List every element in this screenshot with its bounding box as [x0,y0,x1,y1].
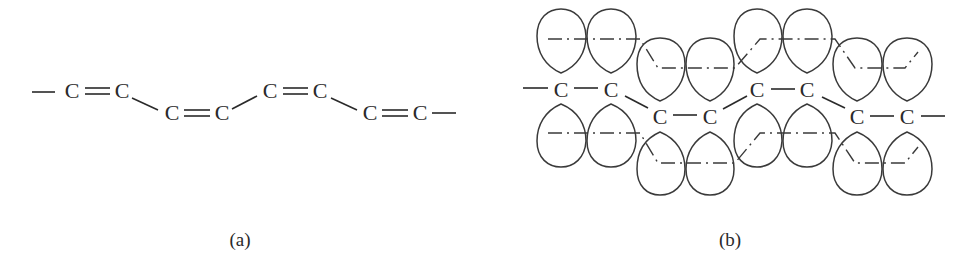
p-orbital-lobe [833,38,882,101]
lobe-pair [537,9,636,73]
carbon-atom: C [413,100,428,125]
p-orbital-lobe [637,132,685,195]
single-bond [132,98,158,110]
carbon-atom: C [850,104,865,129]
p-orbital-lobe [637,38,685,101]
p-orbital-lobe [587,9,636,73]
lobe-pair [734,104,832,167]
carbon-atom: C [750,77,765,102]
lobe-pair [637,38,734,101]
panel-b-orbital-diagram: C C C C C C C C (b) [523,9,945,251]
p-orbital-lobe [537,9,586,73]
carbon-atom: C [65,78,80,103]
carbon-atom: C [703,104,718,129]
carbon-atom: C [115,78,130,103]
carbon-atom: C [263,78,278,103]
lobe-pair [833,38,932,101]
p-orbital-lobe [686,38,734,101]
single-bond [723,96,747,109]
panel-a-polyene-chain: C C C C C C C C (a) [32,78,456,251]
p-orbital-lobe [783,104,832,167]
p-orbital-lobe [537,104,586,167]
carbon-atom: C [165,100,180,125]
carbon-atom: C [900,104,915,129]
carbon-atom: C [215,100,230,125]
panel-a-bonds [32,88,456,116]
single-bond [822,97,845,108]
p-orbital-lobe [783,9,832,73]
carbon-atom: C [604,77,619,102]
carbon-atom: C [653,104,668,129]
single-bond [625,96,648,108]
p-orbital-lobe [883,38,932,101]
p-orbital-lobe [587,104,636,167]
carbon-atom: C [313,78,328,103]
lobe-pair [537,104,636,167]
lobe-pair [833,132,932,195]
carbon-atom: C [800,77,815,102]
panel-b-bonds [523,88,945,116]
single-bond [331,98,357,110]
single-bond [232,96,257,109]
panel-b-caption: (b) [719,229,741,251]
lobe-pair [734,9,832,73]
carbon-atom: C [554,77,569,102]
panel-a-caption: (a) [229,229,250,251]
figure-canvas: C C C C C C C C (a) [0,0,955,256]
p-orbital-lobe [883,132,932,195]
carbon-atom: C [363,100,378,125]
lower-p-orbital-lobes [537,104,932,195]
